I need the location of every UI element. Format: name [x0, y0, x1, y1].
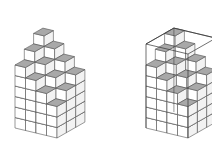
- cube-stack-diagram: [0, 0, 212, 149]
- cube-stack-right-in-box: [146, 28, 212, 138]
- cube-stack-left: [15, 28, 85, 138]
